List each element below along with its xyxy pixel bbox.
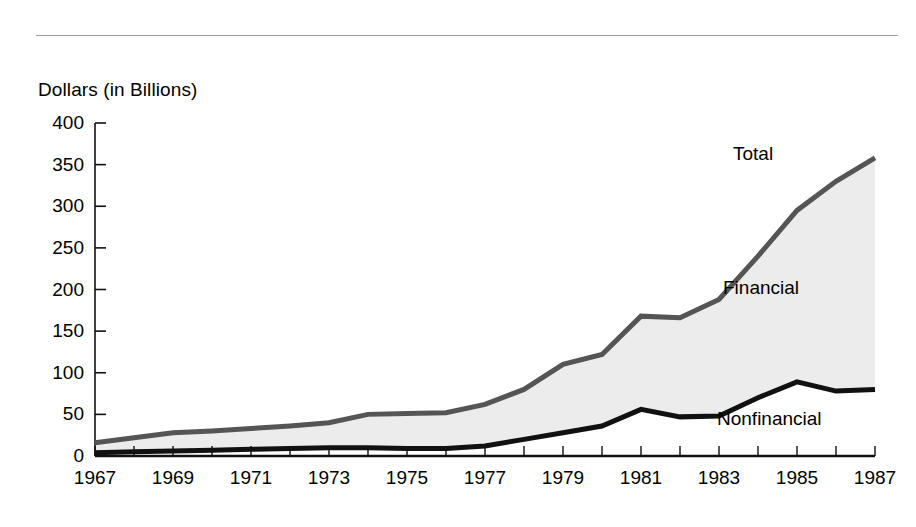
x-tick-label: 1977 xyxy=(455,467,515,489)
x-tick-label: 1973 xyxy=(299,467,359,489)
x-tick-label: 1983 xyxy=(689,467,749,489)
y-tick-label: 50 xyxy=(38,403,84,425)
series-label-financial: Financial xyxy=(723,277,799,299)
x-tick-label: 1967 xyxy=(65,467,125,489)
y-tick-label: 100 xyxy=(38,362,84,384)
y-tick-label: 0 xyxy=(38,445,84,467)
chart-plot-area xyxy=(0,0,916,527)
series-label-total: Total xyxy=(733,143,773,165)
y-tick-label: 250 xyxy=(38,237,84,259)
x-tick-label: 1987 xyxy=(845,467,905,489)
x-tick-label: 1985 xyxy=(767,467,827,489)
y-tick-label: 350 xyxy=(38,154,84,176)
x-tick-label: 1979 xyxy=(533,467,593,489)
y-tick-label: 300 xyxy=(38,195,84,217)
y-tick-label: 150 xyxy=(38,320,84,342)
chart-figure: Dollars (in Billions) 400350300250200150… xyxy=(0,0,916,527)
x-tick-label: 1981 xyxy=(611,467,671,489)
y-tick-label: 400 xyxy=(38,112,84,134)
x-tick-label: 1975 xyxy=(377,467,437,489)
x-tick-label: 1971 xyxy=(221,467,281,489)
series-label-nonfinancial: Nonfinancial xyxy=(717,408,822,430)
x-tick-label: 1969 xyxy=(143,467,203,489)
y-tick-label: 200 xyxy=(38,279,84,301)
